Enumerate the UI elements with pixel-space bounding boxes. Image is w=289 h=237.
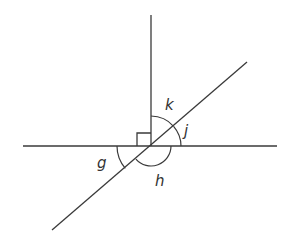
angle-j-arc [174, 126, 181, 146]
angle-g-arc [117, 146, 125, 168]
angle-k-label: k [165, 96, 175, 114]
angle-h-arc [136, 146, 171, 166]
angle-j-label: j [182, 122, 189, 140]
angle-g-label: g [97, 154, 107, 172]
angle-h-label: h [155, 172, 165, 190]
angle-k-arc [151, 116, 174, 126]
angle-diagram: k j g h [0, 0, 289, 237]
right-angle-marker [137, 133, 151, 146]
